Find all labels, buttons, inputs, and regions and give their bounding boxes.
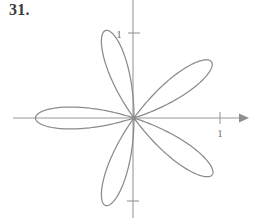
- x-axis-tick-label-1: 1: [217, 127, 223, 139]
- y-axis-tick-label-1: 1: [116, 28, 122, 40]
- polar-rose-figure: 1 1: [0, 0, 253, 218]
- tick-labels-group: 1 1: [116, 28, 223, 139]
- x-axis-arrow-icon: [239, 114, 249, 123]
